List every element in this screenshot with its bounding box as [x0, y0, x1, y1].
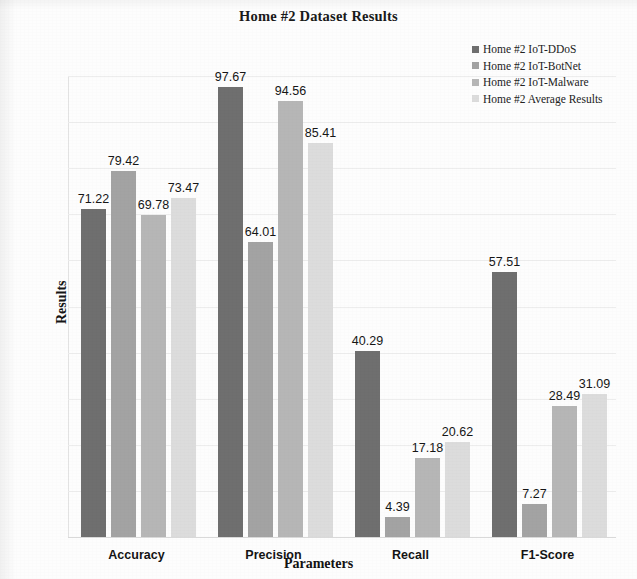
bar-value-label: 7.27 — [522, 487, 546, 501]
bar[interactable]: 31.09 — [582, 394, 607, 537]
bar-value-label: 4.39 — [385, 500, 409, 514]
bar[interactable]: 4.39 — [385, 517, 410, 537]
legend-swatch-icon — [472, 62, 479, 69]
bar-value-label: 20.62 — [442, 425, 473, 439]
bar[interactable]: 17.18 — [415, 458, 440, 537]
legend-swatch-icon — [472, 46, 479, 53]
bar-value-label: 97.67 — [215, 70, 246, 84]
bar-group: 71.2279.4269.7873.47 — [68, 76, 205, 537]
bar[interactable]: 85.41 — [308, 143, 333, 537]
bar[interactable]: 64.01 — [248, 242, 273, 537]
bar[interactable]: 28.49 — [552, 406, 577, 537]
x-axis-title: Parameters — [0, 556, 637, 572]
gridline — [68, 537, 616, 538]
bar-value-label: 73.47 — [168, 181, 199, 195]
bar[interactable]: 94.56 — [278, 101, 303, 537]
bar-group: 40.294.3917.1820.62 — [342, 76, 479, 537]
legend-item[interactable]: Home #2 IoT-DDoS — [472, 41, 636, 58]
chart-figure: Home #2 Dataset Results Home #2 IoT-DDoS… — [0, 0, 637, 579]
bar-value-label: 17.18 — [412, 441, 443, 455]
bar[interactable]: 57.51 — [492, 272, 517, 537]
bar[interactable]: 97.67 — [218, 87, 243, 537]
bar-value-label: 31.09 — [579, 377, 610, 391]
bar-value-label: 85.41 — [305, 126, 336, 140]
bar[interactable]: 71.22 — [81, 209, 106, 537]
bar-group: 97.6764.0194.5685.41 — [205, 76, 342, 537]
bar-group: 57.517.2728.4931.09 — [479, 76, 616, 537]
bar[interactable]: 20.62 — [445, 442, 470, 537]
bar-value-label: 79.42 — [108, 154, 139, 168]
legend-item[interactable]: Home #2 IoT-BotNet — [472, 58, 636, 75]
bar-value-label: 64.01 — [245, 225, 276, 239]
legend-label: Home #2 IoT-DDoS — [483, 43, 577, 55]
bar[interactable]: 73.47 — [171, 198, 196, 537]
bar-value-label: 71.22 — [78, 192, 109, 206]
legend-label: Home #2 IoT-BotNet — [483, 60, 581, 72]
bar-value-label: 57.51 — [489, 255, 520, 269]
bar-value-label: 28.49 — [549, 389, 580, 403]
plot-area: 0102030405060708090100 Results 71.2279.4… — [68, 76, 616, 537]
bar[interactable]: 69.78 — [141, 215, 166, 537]
bar[interactable]: 79.42 — [111, 171, 136, 537]
bar[interactable]: 7.27 — [522, 504, 547, 538]
bar-value-label: 69.78 — [138, 198, 169, 212]
bar-value-label: 40.29 — [352, 334, 383, 348]
bar-value-label: 94.56 — [275, 84, 306, 98]
bar[interactable]: 40.29 — [355, 351, 380, 537]
chart-title: Home #2 Dataset Results — [0, 8, 637, 25]
